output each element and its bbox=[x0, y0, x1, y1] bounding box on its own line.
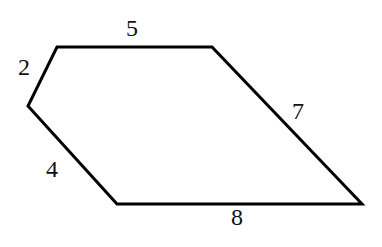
label-top-side: 5 bbox=[126, 15, 138, 41]
label-lower-left-side: 4 bbox=[46, 156, 58, 182]
label-bottom-side: 8 bbox=[231, 204, 243, 230]
label-right-side: 7 bbox=[292, 98, 304, 124]
pentagon-shape bbox=[28, 47, 362, 204]
pentagon-diagram: 5 2 7 8 4 bbox=[0, 0, 382, 247]
label-upper-left-side: 2 bbox=[18, 54, 30, 80]
